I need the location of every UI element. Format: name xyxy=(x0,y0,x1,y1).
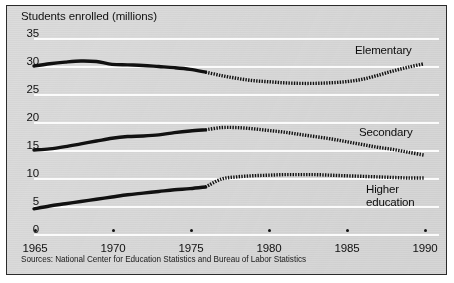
chart-figure: Students enrolled (millions) 35 30 25 20… xyxy=(0,0,454,283)
chart-series-layer xyxy=(0,0,454,283)
series-label-secondary: Secondary xyxy=(359,126,413,139)
series-line-actual-2 xyxy=(34,187,206,209)
series-line-projected-0 xyxy=(206,64,424,84)
source-note: Sources: National Center for Education S… xyxy=(21,255,306,264)
series-line-actual-0 xyxy=(34,61,206,72)
series-label-elementary: Elementary xyxy=(355,44,412,57)
series-line-actual-1 xyxy=(34,130,206,150)
series-label-higher-education: Higher education xyxy=(366,183,415,208)
